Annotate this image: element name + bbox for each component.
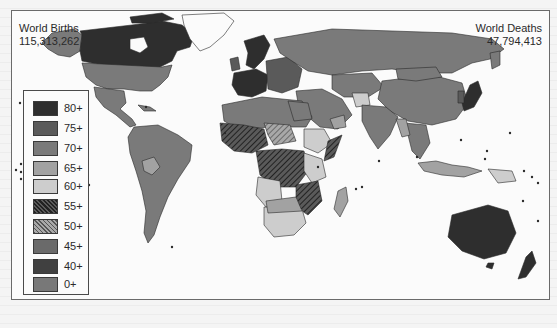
region-western-europe (232, 69, 268, 97)
region-south-america (128, 125, 192, 243)
region-mexico (94, 87, 136, 127)
legend-label: 75+ (64, 122, 83, 134)
legend-item-55: 55+ (33, 199, 89, 215)
region-new-zealand (518, 251, 536, 279)
region-uk (230, 57, 240, 71)
world-deaths-label: World Deaths (476, 22, 542, 35)
world-births-label: World Births (19, 22, 79, 35)
region-myanmar (396, 119, 410, 137)
legend-swatch (33, 121, 58, 136)
legend-label: 45+ (64, 240, 83, 252)
legend-swatch (33, 199, 58, 214)
legend-label: 0+ (64, 278, 77, 290)
region-arctic-islands (130, 13, 174, 23)
legend-label: 80+ (64, 102, 83, 114)
region-papua (488, 169, 516, 183)
region-east-africa (304, 153, 326, 183)
legend-label: 70+ (64, 142, 83, 154)
legend-item-75: 75+ (33, 121, 89, 137)
legend-swatch (33, 101, 58, 116)
life-expectancy-legend: 80+ 75+ 70+ 65+ 60+ 55+ 50+ 45+ (23, 90, 89, 295)
world-births-stat: World Births 115,313,262 (19, 22, 79, 48)
legend-swatch (33, 141, 58, 156)
legend-label: 55+ (64, 200, 83, 212)
region-usa (82, 63, 172, 91)
legend-item-80: 80+ (33, 101, 89, 117)
world-births-value: 115,313,262 (19, 35, 79, 48)
legend-swatch (33, 161, 58, 176)
world-deaths-value: 47,794,413 (476, 35, 542, 48)
region-madagascar (334, 187, 348, 217)
legend-item-70: 70+ (33, 141, 89, 157)
legend-label: 65+ (64, 162, 83, 174)
legend-swatch (33, 277, 58, 292)
legend-item-60: 60+ (33, 179, 89, 195)
region-afghanistan (352, 93, 370, 107)
region-korea (458, 91, 464, 103)
legend-swatch (33, 259, 58, 274)
legend-label: 50+ (64, 220, 83, 232)
region-australia (448, 205, 516, 259)
region-japan (462, 81, 482, 111)
legend-item-40: 40+ (33, 259, 89, 275)
legend-item-65: 65+ (33, 161, 89, 177)
legend-swatch (33, 179, 58, 194)
legend-label: 40+ (64, 260, 83, 272)
legend-label: 60+ (64, 180, 83, 192)
world-map-figure: World Births 115,313,262 World Deaths 47… (11, 10, 550, 300)
world-deaths-stat: World Deaths 47,794,413 (476, 22, 542, 48)
legend-item-45: 45+ (33, 239, 89, 255)
region-russia (274, 29, 504, 75)
legend-swatch (33, 239, 58, 254)
region-indonesia (418, 161, 482, 177)
region-tasmania (486, 263, 494, 269)
legend-item-50: 50+ (33, 219, 89, 235)
legend-swatch (33, 219, 58, 234)
world-map (12, 11, 550, 300)
legend-item-0: 0+ (33, 277, 89, 293)
